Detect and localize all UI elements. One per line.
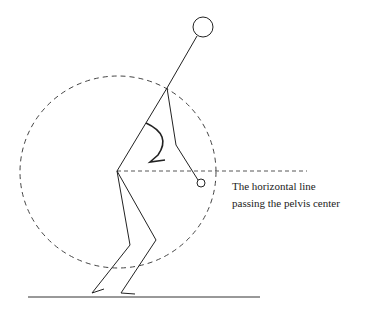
annotation-line1: The horizontal line	[232, 180, 316, 192]
trunk	[117, 88, 167, 171]
hand	[197, 179, 205, 187]
head	[193, 17, 213, 37]
left-leg	[92, 171, 130, 293]
arm	[167, 88, 198, 180]
neck	[167, 36, 197, 88]
stick-figure-diagram	[0, 0, 369, 314]
annotation-line2: passing the pelvis center	[232, 197, 340, 209]
trunk-angle-arc	[146, 123, 165, 162]
diagram: The horizontal line passing the pelvis c…	[0, 0, 369, 314]
right-leg	[117, 171, 156, 294]
